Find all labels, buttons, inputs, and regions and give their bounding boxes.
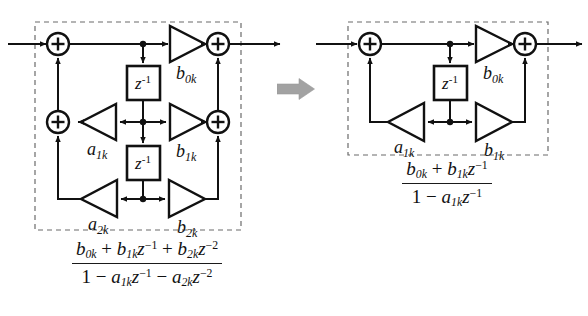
gain-a2k-label: a2k — [88, 214, 109, 237]
block-arrow-right-icon — [277, 78, 315, 100]
gain-b1k — [170, 104, 205, 140]
wire-a1k-to-topleft-adder — [370, 58, 388, 122]
gain-a2k — [81, 180, 117, 217]
figure-canvas: z-1 z-1 b0k b1k b2k a1k a2k — [0, 0, 588, 316]
left-fraction: b0k + b1kz−1 + b2kz−2 1 − a1kz−1 − a2kz−… — [72, 238, 222, 290]
gain-b0k-label: b0k — [483, 63, 504, 86]
gain-b0k — [476, 26, 512, 62]
gain-b1k-label: b1k — [176, 141, 197, 164]
gain-b0k-label: b0k — [176, 63, 197, 86]
left-transfer-function: b0k + b1kz−1 + b2kz−2 1 − a1kz−1 − a2kz−… — [20, 238, 274, 290]
page-caption-remnant: ‌ — [0, 305, 588, 316]
gain-a1k — [388, 103, 424, 141]
wire-a2k-to-midleft-adder — [58, 136, 81, 199]
wire-b1k-to-topright-adder — [512, 58, 525, 122]
gain-b0k — [170, 26, 205, 62]
gain-b2k — [169, 180, 205, 217]
right-denominator: 1 − a1kz−1 — [402, 184, 491, 210]
block-arrow-shape — [277, 79, 315, 100]
gain-b2k-label: b2k — [177, 217, 198, 240]
left-denominator: 1 − a1kz−1 − a2kz−2 — [72, 264, 222, 290]
gain-a1k-label: a1k — [87, 139, 108, 162]
right-transfer-function: b0k + b1kz−1 1 − a1kz−1 — [320, 158, 574, 210]
wire-b2k-to-midright-adder — [205, 136, 218, 199]
right-numerator: b0k + b1kz−1 — [402, 158, 491, 184]
gain-b1k — [476, 103, 512, 141]
gain-a1k-label: a1k — [394, 137, 415, 160]
right-fraction: b0k + b1kz−1 1 − a1kz−1 — [402, 158, 491, 210]
gain-a1k — [81, 104, 116, 140]
left-numerator: b0k + b1kz−1 + b2kz−2 — [72, 238, 222, 264]
